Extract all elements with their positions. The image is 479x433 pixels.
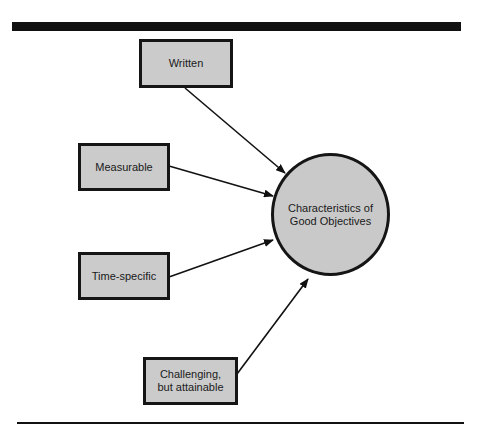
- bottom-rule: [17, 422, 464, 424]
- arrow-challenging-to-center: [237, 279, 308, 374]
- arrow-time-specific-to-center: [169, 240, 273, 277]
- node-challenging-label: Challenging, but attainable: [157, 368, 223, 394]
- node-written-label: Written: [169, 57, 204, 70]
- arrow-measurable-to-center: [169, 166, 273, 196]
- node-written: Written: [139, 39, 233, 88]
- center-node: Characteristics of Good Objectives: [271, 153, 390, 276]
- node-time-specific: Time-specific: [78, 252, 170, 300]
- arrow-written-to-center: [185, 88, 285, 173]
- node-measurable-label: Measurable: [95, 161, 152, 174]
- node-challenging: Challenging, but attainable: [143, 357, 238, 405]
- node-measurable: Measurable: [78, 143, 170, 191]
- connector-arrows: [0, 0, 479, 433]
- node-time-specific-label: Time-specific: [92, 270, 156, 283]
- center-node-label: Characteristics of Good Objectives: [288, 202, 373, 228]
